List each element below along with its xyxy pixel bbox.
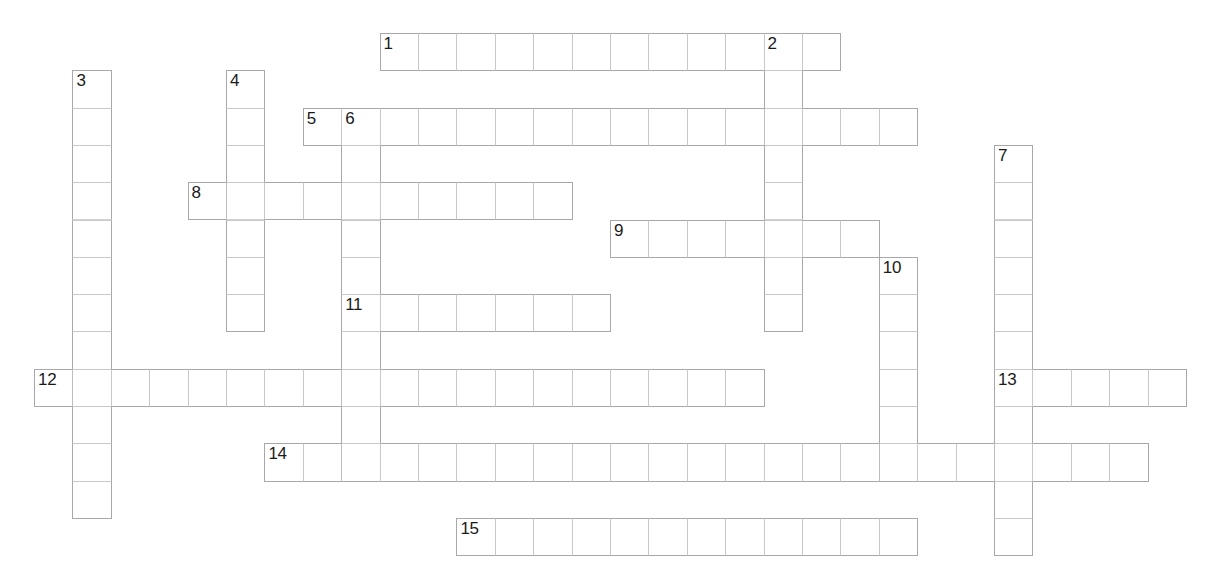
crossword-cell[interactable] — [341, 220, 380, 258]
crossword-cell[interactable] — [1109, 443, 1148, 481]
crossword-cell[interactable] — [687, 443, 726, 481]
crossword-cell[interactable] — [188, 369, 227, 407]
crossword-cell[interactable] — [303, 443, 342, 481]
crossword-cell[interactable] — [725, 220, 764, 258]
crossword-cell[interactable] — [840, 220, 879, 258]
crossword-cell[interactable] — [341, 406, 380, 444]
crossword-cell[interactable] — [456, 108, 495, 146]
crossword-cell[interactable] — [1148, 369, 1187, 407]
crossword-cell[interactable] — [994, 518, 1033, 556]
crossword-cell[interactable] — [802, 108, 841, 146]
crossword-cell[interactable]: 11 — [341, 294, 380, 332]
crossword-cell[interactable] — [72, 331, 111, 369]
crossword-cell[interactable] — [725, 369, 764, 407]
crossword-cell[interactable] — [610, 443, 649, 481]
crossword-cell[interactable] — [840, 108, 879, 146]
crossword-cell[interactable] — [917, 443, 956, 481]
crossword-cell[interactable]: 2 — [764, 33, 803, 71]
crossword-cell[interactable] — [418, 108, 457, 146]
crossword-cell[interactable]: 8 — [188, 182, 227, 220]
crossword-cell[interactable] — [495, 369, 534, 407]
crossword-cell[interactable] — [610, 369, 649, 407]
crossword-cell[interactable] — [418, 33, 457, 71]
crossword-cell[interactable] — [764, 70, 803, 108]
crossword-cell[interactable] — [764, 294, 803, 332]
crossword-cell[interactable] — [341, 369, 380, 407]
crossword-cell[interactable] — [418, 369, 457, 407]
crossword-cell[interactable]: 6 — [341, 108, 380, 146]
crossword-cell[interactable] — [303, 369, 342, 407]
crossword-cell[interactable] — [764, 257, 803, 295]
crossword-cell[interactable] — [72, 108, 111, 146]
crossword-cell[interactable]: 10 — [879, 257, 918, 295]
crossword-cell[interactable] — [687, 518, 726, 556]
crossword-cell[interactable] — [764, 108, 803, 146]
crossword-cell[interactable] — [456, 182, 495, 220]
crossword-cell[interactable]: 14 — [264, 443, 303, 481]
crossword-cell[interactable] — [994, 406, 1033, 444]
crossword-cell[interactable] — [802, 518, 841, 556]
crossword-cell[interactable] — [994, 182, 1033, 220]
crossword-cell[interactable] — [879, 443, 918, 481]
crossword-cell[interactable] — [994, 294, 1033, 332]
crossword-cell[interactable] — [879, 518, 918, 556]
crossword-cell[interactable]: 12 — [34, 369, 73, 407]
crossword-cell[interactable] — [764, 182, 803, 220]
crossword-cell[interactable] — [72, 481, 111, 519]
crossword-cell[interactable] — [226, 220, 265, 258]
crossword-cell[interactable] — [380, 443, 419, 481]
crossword-cell[interactable] — [72, 369, 111, 407]
crossword-cell[interactable] — [956, 443, 995, 481]
crossword-cell[interactable] — [687, 220, 726, 258]
crossword-cell[interactable] — [648, 108, 687, 146]
crossword-cell[interactable] — [572, 443, 611, 481]
crossword-cell[interactable] — [226, 182, 265, 220]
crossword-cell[interactable] — [802, 443, 841, 481]
crossword-cell[interactable] — [725, 33, 764, 71]
crossword-cell[interactable] — [1071, 443, 1110, 481]
crossword-cell[interactable] — [687, 33, 726, 71]
crossword-cell[interactable] — [879, 406, 918, 444]
crossword-cell[interactable] — [495, 294, 534, 332]
crossword-cell[interactable] — [764, 518, 803, 556]
crossword-cell[interactable] — [572, 294, 611, 332]
crossword-cell[interactable] — [456, 443, 495, 481]
crossword-cell[interactable] — [994, 443, 1033, 481]
crossword-cell[interactable] — [533, 33, 572, 71]
crossword-cell[interactable] — [533, 518, 572, 556]
crossword-cell[interactable] — [764, 443, 803, 481]
crossword-cell[interactable] — [495, 443, 534, 481]
crossword-cell[interactable] — [687, 369, 726, 407]
crossword-cell[interactable]: 7 — [994, 145, 1033, 183]
crossword-cell[interactable] — [725, 443, 764, 481]
crossword-cell[interactable] — [994, 257, 1033, 295]
crossword-cell[interactable] — [533, 443, 572, 481]
crossword-cell[interactable] — [572, 33, 611, 71]
crossword-cell[interactable] — [648, 33, 687, 71]
crossword-cell[interactable]: 3 — [72, 70, 111, 108]
crossword-cell[interactable] — [72, 406, 111, 444]
crossword-cell[interactable] — [72, 220, 111, 258]
crossword-cell[interactable] — [72, 294, 111, 332]
crossword-cell[interactable] — [226, 145, 265, 183]
crossword-cell[interactable] — [687, 108, 726, 146]
crossword-cell[interactable] — [533, 369, 572, 407]
crossword-cell[interactable] — [72, 257, 111, 295]
crossword-cell[interactable] — [456, 33, 495, 71]
crossword-cell[interactable] — [303, 182, 342, 220]
crossword-cell[interactable] — [994, 481, 1033, 519]
crossword-cell[interactable] — [994, 220, 1033, 258]
crossword-cell[interactable] — [341, 443, 380, 481]
crossword-cell[interactable] — [533, 182, 572, 220]
crossword-cell[interactable] — [725, 108, 764, 146]
crossword-cell[interactable] — [418, 294, 457, 332]
crossword-cell[interactable] — [495, 518, 534, 556]
crossword-cell[interactable] — [572, 518, 611, 556]
crossword-cell[interactable] — [802, 33, 841, 71]
crossword-cell[interactable] — [341, 145, 380, 183]
crossword-cell[interactable]: 13 — [994, 369, 1033, 407]
crossword-cell[interactable] — [226, 369, 265, 407]
crossword-cell[interactable] — [264, 369, 303, 407]
crossword-cell[interactable] — [264, 182, 303, 220]
crossword-cell[interactable] — [648, 369, 687, 407]
